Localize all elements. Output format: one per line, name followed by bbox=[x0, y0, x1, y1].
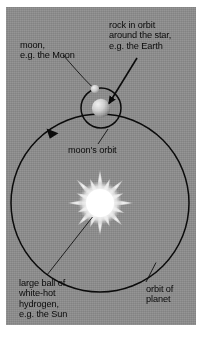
label-sun: large ball of white-hot hydrogen, e.g. t… bbox=[19, 278, 67, 320]
diagram-panel: moon, e.g. the Moon rock in orbit around… bbox=[6, 7, 196, 325]
planet-orbit-direction-arrowhead bbox=[47, 129, 59, 139]
moon-orbit-leader-line bbox=[98, 129, 108, 144]
sun-core bbox=[86, 189, 114, 217]
figure-canvas: moon, e.g. the Moon rock in orbit around… bbox=[0, 0, 202, 339]
planet-leader-line bbox=[109, 58, 137, 104]
moon-body bbox=[91, 85, 99, 93]
planet-body bbox=[92, 99, 110, 117]
label-moon-orbit: moon's orbit bbox=[68, 145, 117, 155]
label-planet: rock in orbit around the star, e.g. the … bbox=[109, 20, 171, 51]
label-moon: moon, e.g. the Moon bbox=[20, 40, 75, 61]
label-planet-orbit: orbit of planet bbox=[146, 284, 173, 305]
sun-leader-line bbox=[47, 217, 93, 275]
sun-body bbox=[67, 169, 134, 236]
planet-orbit-leader-line bbox=[146, 263, 156, 283]
